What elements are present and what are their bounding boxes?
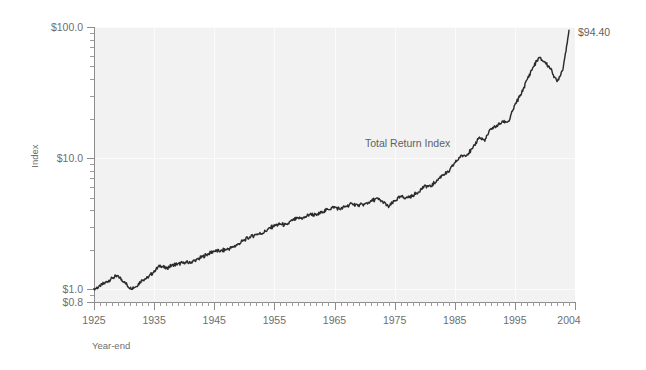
- x-axis-tick-label: 1975: [383, 314, 407, 326]
- x-axis-tick-label: 1965: [323, 314, 347, 326]
- y-axis-tick-label: $10.0: [57, 152, 83, 164]
- x-axis-tick-labels: 192519351945195519651975198519952004: [82, 314, 581, 326]
- y-axis-tick-label: $1.0: [63, 283, 84, 295]
- y-axis-tick-label: $0.8: [63, 296, 84, 308]
- x-axis-tick-label: 1925: [82, 314, 106, 326]
- plot-area-background: [94, 27, 575, 302]
- x-axis-tick-label: 1995: [503, 314, 527, 326]
- series-annotation-label: Total Return Index: [365, 137, 451, 149]
- x-axis-title: Year-end: [92, 340, 130, 351]
- y-axis-title: Index: [29, 144, 40, 167]
- x-axis-tick-label: 1935: [142, 314, 166, 326]
- y-axis-tick-label: $100.0: [51, 21, 83, 33]
- x-axis-tick-label: 1945: [203, 314, 227, 326]
- chart-canvas: $100.0$10.0$1.0$0.8 19251935194519551965…: [0, 0, 646, 370]
- chart-figure: $100.0$10.0$1.0$0.8 19251935194519551965…: [0, 0, 646, 370]
- x-axis-tick-label: 1955: [263, 314, 287, 326]
- endpoint-value-label: $94.40: [578, 26, 610, 38]
- x-axis-tick-label: 1985: [443, 314, 467, 326]
- x-axis-tick-label: 2004: [557, 314, 581, 326]
